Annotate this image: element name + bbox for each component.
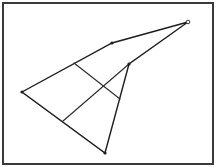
inner-segment-2 bbox=[63, 64, 129, 121]
vertex-left-dot-icon bbox=[20, 90, 23, 93]
diagram-canvas bbox=[0, 0, 218, 167]
inner-segments bbox=[63, 63, 129, 121]
inner-segment-1 bbox=[74, 63, 120, 99]
vertex-inner-dot-icon bbox=[127, 62, 130, 65]
vertex-bottom-dot-icon bbox=[103, 151, 106, 154]
vertex-tip-dot-icon bbox=[186, 20, 190, 24]
vertex-top-mid-dot-icon bbox=[110, 41, 113, 44]
